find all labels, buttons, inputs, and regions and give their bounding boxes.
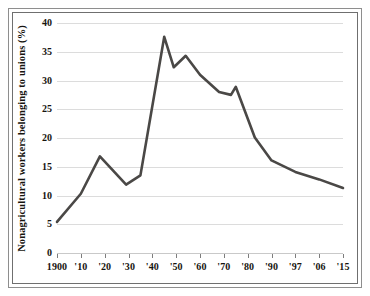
x-tick-label-3: '30 bbox=[122, 261, 135, 272]
x-tick-label-4: '40 bbox=[146, 261, 159, 272]
x-tick-mark-11 bbox=[319, 254, 320, 258]
x-tick-label-6: '60 bbox=[193, 261, 206, 272]
x-tick-mark-10 bbox=[295, 254, 296, 258]
x-tick-mark-3 bbox=[129, 254, 130, 258]
x-tick-mark-12 bbox=[343, 254, 344, 258]
union-membership-line bbox=[57, 37, 343, 222]
y-axis-title: Nonagricultural workers belonging to uni… bbox=[14, 23, 28, 253]
plot-area bbox=[57, 23, 343, 253]
x-tick-mark-9 bbox=[272, 254, 273, 258]
x-tick-label-12: '15 bbox=[336, 261, 349, 272]
x-tick-mark-8 bbox=[248, 254, 249, 258]
x-tick-label-9: '90 bbox=[265, 261, 278, 272]
x-tick-mark-5 bbox=[176, 254, 177, 258]
x-tick-label-11: '06 bbox=[313, 261, 326, 272]
x-tick-mark-2 bbox=[105, 254, 106, 258]
x-tick-label-7: '70 bbox=[217, 261, 230, 272]
x-tick-mark-1 bbox=[81, 254, 82, 258]
x-tick-label-8: '80 bbox=[241, 261, 254, 272]
x-tick-mark-6 bbox=[200, 254, 201, 258]
line-series bbox=[57, 23, 343, 253]
x-tick-label-10: '97 bbox=[289, 261, 302, 272]
x-tick-label-2: '20 bbox=[98, 261, 111, 272]
x-tick-mark-7 bbox=[224, 254, 225, 258]
x-tick-mark-0 bbox=[57, 254, 58, 258]
y-axis-title-text: Nonagricultural workers belonging to uni… bbox=[16, 25, 27, 252]
x-tick-label-5: '50 bbox=[170, 261, 183, 272]
x-tick-label-1: '10 bbox=[74, 261, 87, 272]
x-tick-label-0: 1900 bbox=[47, 261, 67, 272]
x-tick-mark-4 bbox=[152, 254, 153, 258]
